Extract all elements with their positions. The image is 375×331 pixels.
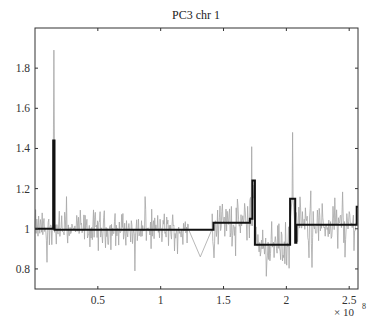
raw-signal-series — [35, 50, 356, 276]
raw-signal-line — [35, 50, 356, 276]
x-tick-label: 2.5 — [342, 294, 357, 306]
y-tick-label: 1.8 — [16, 62, 31, 74]
y-tick-label: 1.2 — [16, 183, 31, 195]
y-tick-label: 1.4 — [16, 142, 31, 154]
axes-frame — [35, 28, 358, 289]
x-tick-label: 2 — [283, 294, 289, 306]
x-tick-label: 0.5 — [91, 294, 106, 306]
y-tick-label: 1 — [24, 223, 30, 235]
y-tick-label: 0.8 — [16, 263, 31, 275]
x-multiplier-exponent: 8 — [362, 302, 366, 311]
x-axis-ticks: 0.511.522.5 — [91, 28, 357, 306]
plot-area: 0.511.522.5 0.811.21.41.61.8 — [16, 28, 358, 306]
x-multiplier-label: × 10 — [334, 306, 354, 318]
x-tick-label: 1 — [158, 294, 164, 306]
chart: PC3 chr 1 0.511.522.5 0.811.21.41.61.8 ×… — [0, 0, 375, 331]
x-tick-label: 1.5 — [216, 294, 231, 306]
chart-title: PC3 chr 1 — [172, 8, 220, 22]
y-tick-label: 1.6 — [16, 102, 31, 114]
